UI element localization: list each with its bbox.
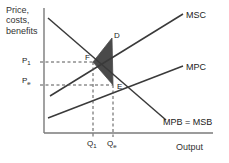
y-tick-label-p1: P1 [22, 56, 31, 65]
y-axis-title-line3: benefits [6, 26, 38, 36]
y-tick-p1-sub: 1 [27, 60, 30, 66]
x-tick-qe-sub: e [113, 143, 116, 149]
x-tick-label-qe: Qe [107, 139, 117, 148]
point-label-d: D [114, 31, 120, 40]
y-axis-title-line2: costs, [6, 15, 38, 25]
x-tick-q1-sub: 1 [93, 143, 96, 149]
point-label-f: F [85, 53, 90, 62]
curve-mpb-msb [48, 18, 166, 120]
curve-label-mpc: MPC [186, 62, 206, 72]
y-tick-label-pe: Pe [22, 76, 31, 85]
y-axis-title: Price, costs, benefits [6, 5, 38, 36]
y-axis-title-line1: Price, [6, 5, 38, 15]
y-tick-pe-sub: e [27, 80, 30, 86]
curve-label-mpb-msb: MPB = MSB [163, 117, 212, 127]
economics-externality-diagram: Price, costs, benefits Output MSC MPC MP… [0, 0, 229, 163]
curve-label-msc: MSC [186, 10, 206, 20]
welfare-loss-triangle [93, 38, 113, 85]
point-label-e: E [117, 82, 122, 91]
x-tick-label-q1: Q1 [87, 139, 97, 148]
x-axis-title: Output [176, 142, 203, 152]
curve-mpc [48, 66, 183, 118]
